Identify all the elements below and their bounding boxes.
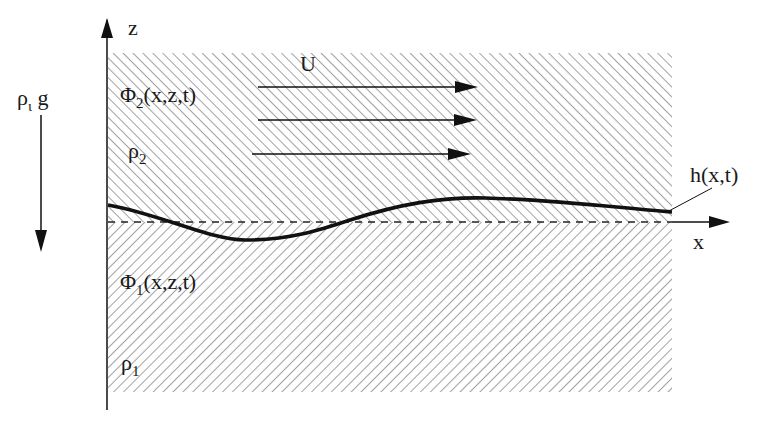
lower-layer-region — [108, 222, 672, 392]
lower-phi-args: (x,z,t) — [144, 269, 197, 294]
interface-label: h(x,t) — [690, 164, 738, 186]
flow-velocity-label: U — [300, 53, 316, 75]
gravity-arrowhead-icon — [35, 230, 47, 252]
lower-phi: Φ — [120, 269, 136, 294]
diagram-canvas — [0, 0, 762, 424]
upper-rho: ρ — [128, 138, 139, 163]
lower-phi-sub: 1 — [136, 282, 144, 298]
upper-phi-sub: 2 — [136, 95, 144, 111]
upper-density-label: ρ2 — [128, 140, 146, 167]
z-axis-label: z — [128, 17, 138, 39]
gravity-rho: ρ — [17, 85, 28, 110]
lower-rho-sub: 1 — [132, 363, 140, 379]
upper-phi-args: (x,z,t) — [144, 82, 197, 107]
x-axis-label: x — [693, 231, 704, 253]
upper-layer-region — [108, 53, 672, 222]
lower-density-label: ρ1 — [121, 352, 139, 379]
gravity-label: ρι g — [17, 87, 49, 114]
gravity-g: g — [32, 85, 49, 110]
lower-potential-label: Φ1(x,z,t) — [120, 271, 196, 298]
upper-phi: Φ — [120, 82, 136, 107]
lower-rho: ρ — [121, 350, 132, 375]
interface-leader-line — [667, 188, 712, 212]
x-axis-arrowhead-icon — [709, 216, 730, 228]
upper-rho-sub: 2 — [139, 151, 147, 167]
upper-potential-label: Φ2(x,z,t) — [120, 84, 196, 111]
z-axis-arrowhead-icon — [101, 18, 113, 38]
